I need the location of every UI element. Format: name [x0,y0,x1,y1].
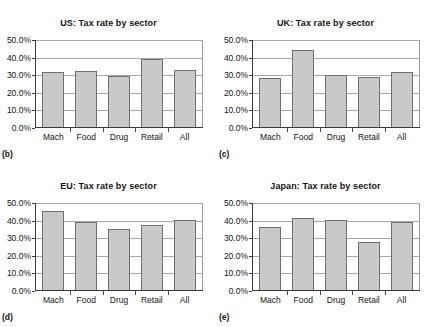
panel-tag: (d) [2,312,13,322]
chart-panel-japan: Japan: Tax rate by sector 0.0%10.0%20.0%… [217,163,434,326]
y-axis-label: 50.0% [224,198,248,208]
y-axis [35,203,36,291]
x-axis-labels: MachFoodDrugRetailAll [35,295,203,305]
x-axis-label: Mach [37,132,70,142]
y-axis-label: 10.0% [7,105,31,115]
bar-slot [352,203,385,291]
chart-panel-eu: EU: Tax rate by sector 0.0%10.0%20.0%30.… [0,163,217,326]
y-axis-label: 10.0% [224,268,248,278]
bar-food[interactable] [292,218,314,291]
x-axis-label: All [168,295,201,305]
bar-all[interactable] [391,72,413,128]
bar-retail[interactable] [141,225,163,291]
x-axis-label: Drug [320,295,353,305]
bar-food[interactable] [75,71,97,128]
bar-slot [385,203,418,291]
bar-slot [168,203,201,291]
panel-tag: (c) [219,149,229,159]
y-axis-label: 20.0% [7,88,31,98]
bar-mach[interactable] [259,227,281,291]
bar-slot [135,40,168,128]
y-axis-label: 50.0% [7,35,31,45]
bar-all[interactable] [174,70,196,128]
y-axis-label: 40.0% [224,53,248,63]
plot-wrap: 0.0%10.0%20.0%30.0%40.0%50.0% [252,40,420,128]
y-axis [252,203,253,291]
y-axis-label: 0.0% [12,123,31,133]
bar-food[interactable] [292,50,314,128]
x-axis-labels: MachFoodDrugRetailAll [252,132,420,142]
bar-mach[interactable] [259,78,281,128]
chart-title: US: Tax rate by sector [0,18,217,28]
bar-mach[interactable] [42,72,64,128]
bar-retail[interactable] [358,77,380,128]
x-axis-label: Retail [135,295,168,305]
bar-retail[interactable] [141,59,163,128]
plot-wrap: 0.0%10.0%20.0%30.0%40.0%50.0% [252,203,420,291]
bar-slot [320,40,353,128]
x-axis-label: Mach [254,295,287,305]
bar-drug[interactable] [325,220,347,291]
figure-grid: US: Tax rate by sector 0.0%10.0%20.0%30.… [0,0,434,327]
x-axis-label: All [385,295,418,305]
x-axis-label: Drug [103,295,136,305]
y-axis-label: 20.0% [224,251,248,261]
x-axis-label: Mach [37,295,70,305]
x-axis-label: Food [287,132,320,142]
y-axis-label: 40.0% [224,216,248,226]
bar-slot [70,40,103,128]
chart-panel-uk: UK: Tax rate by sector 0.0%10.0%20.0%30.… [217,0,434,163]
bar-retail[interactable] [358,242,380,291]
panel-tag: (e) [219,312,229,322]
bar-slot [254,203,287,291]
y-axis-label: 30.0% [7,233,31,243]
bar-series [252,40,420,128]
bar-series [252,203,420,291]
bar-slot [287,203,320,291]
bar-slot [70,203,103,291]
bar-series [35,40,203,128]
bar-slot [320,203,353,291]
bar-mach[interactable] [42,211,64,291]
y-axis-label: 40.0% [7,216,31,226]
bar-slot [103,40,136,128]
chart-title: EU: Tax rate by sector [0,181,217,191]
y-axis [252,40,253,128]
x-axis-label: Retail [352,132,385,142]
y-axis-label: 0.0% [229,123,248,133]
x-axis-label: All [385,132,418,142]
y-axis-label: 0.0% [12,286,31,296]
x-axis-label: Retail [352,295,385,305]
plot-wrap: 0.0%10.0%20.0%30.0%40.0%50.0% [35,203,203,291]
chart-title: UK: Tax rate by sector [217,18,434,28]
y-axis-label: 30.0% [224,233,248,243]
y-axis-label: 30.0% [224,70,248,80]
y-axis-label: 10.0% [224,105,248,115]
bar-all[interactable] [174,220,196,291]
chart-title: Japan: Tax rate by sector [217,181,434,191]
bar-drug[interactable] [325,75,347,129]
bar-drug[interactable] [108,76,130,128]
bar-slot [103,203,136,291]
x-axis-label: Mach [254,132,287,142]
bar-food[interactable] [75,222,97,291]
x-axis-labels: MachFoodDrugRetailAll [35,132,203,142]
bar-series [35,203,203,291]
bar-slot [37,40,70,128]
x-axis-labels: MachFoodDrugRetailAll [252,295,420,305]
y-axis-label: 10.0% [7,268,31,278]
x-axis-label: Food [70,132,103,142]
bar-all[interactable] [391,222,413,291]
bar-slot [168,40,201,128]
bar-drug[interactable] [108,229,130,291]
x-axis-label: Food [287,295,320,305]
bar-slot [287,40,320,128]
bar-slot [385,40,418,128]
y-axis-label: 0.0% [229,286,248,296]
panel-tag: (b) [2,149,13,159]
bar-slot [37,203,70,291]
x-axis-label: Drug [103,132,136,142]
bar-slot [254,40,287,128]
x-axis-label: Retail [135,132,168,142]
chart-panel-us: US: Tax rate by sector 0.0%10.0%20.0%30.… [0,0,217,163]
